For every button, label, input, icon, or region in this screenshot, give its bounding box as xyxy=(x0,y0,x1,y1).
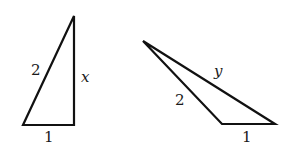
obtuse-triangle: y 2 1 xyxy=(143,41,275,146)
label-base-1: 1 xyxy=(242,128,252,146)
right-triangle: 2 x 1 xyxy=(23,16,90,146)
label-base-1: 1 xyxy=(44,128,54,146)
obtuse-triangle-shape xyxy=(143,41,275,124)
label-side-x: x xyxy=(81,68,90,86)
label-hypotenuse-2: 2 xyxy=(31,61,41,79)
label-side-2: 2 xyxy=(175,91,185,109)
label-side-y: y xyxy=(213,62,223,80)
diagram-canvas: 2 x 1 y 2 1 xyxy=(0,0,289,150)
